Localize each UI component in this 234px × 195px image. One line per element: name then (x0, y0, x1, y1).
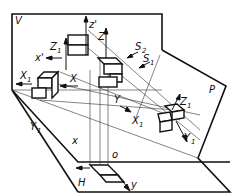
axis-y1-label: Y (30, 121, 37, 132)
subscript: 1 (57, 47, 61, 55)
axis-y-label: Y (114, 94, 121, 105)
direction-s1-label: S (143, 53, 150, 64)
subscript: 1 (27, 76, 31, 84)
subscript: 1 (150, 59, 154, 67)
axis-y1-p-label: Y (184, 132, 191, 143)
plane-p-label: P (209, 84, 216, 95)
plane-v-label: V (15, 15, 23, 26)
frontal-box-bottom (68, 45, 88, 55)
subscript: 1 (187, 102, 191, 110)
axis-x-prime-label: x' (34, 52, 44, 63)
subscript: 1 (191, 138, 195, 146)
subscript: 1 (139, 121, 143, 129)
axonometric-diagram: V H P z' x' Z X Y Z1 X1 Y1 X1 Y1 Z1 x o … (0, 0, 234, 195)
frontal-box-top (68, 35, 88, 45)
plane-frames (12, 14, 230, 192)
subscript: 1 (37, 127, 41, 135)
axis-z-label: Z (97, 31, 106, 42)
plane-h-label: H (78, 177, 86, 188)
axis-x-h-label: x (71, 135, 78, 146)
direction-s2-label: S (135, 41, 142, 52)
origin-label: o (112, 149, 118, 160)
axis-x-label: X (69, 73, 78, 84)
labels: V H P z' x' Z X Y Z1 X1 Y1 X1 Y1 Z1 x o … (15, 15, 216, 190)
axis-z-prime-label: z' (88, 19, 97, 30)
axis-y-h-label: y (130, 179, 138, 190)
